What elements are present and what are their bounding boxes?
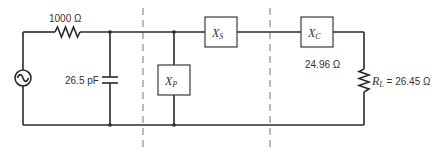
load-resistor-label: RL = 26.45 Ω [371,74,431,89]
shunt-capacitor-label: 26.5 pF [65,75,99,86]
circuit-diagram: 1000 Ω 26.5 pF XP XS XC 24.96 Ω RL = 26.… [0,0,447,155]
load-resistor-icon [359,69,369,92]
shunt-reactance-branch [158,30,190,127]
sine-wave-icon [18,75,29,82]
source-resistor-label: 1000 Ω [49,13,82,24]
load-branch [359,32,369,125]
source-branch [15,32,31,125]
resistor-icon [55,27,80,37]
shunt-capacitor-branch [102,30,118,127]
xc-value-label: 24.96 Ω [305,59,341,70]
